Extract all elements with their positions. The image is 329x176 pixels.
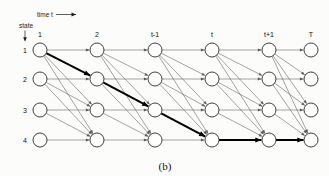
transition-edge [159, 56, 208, 134]
state-node [205, 103, 219, 117]
row-label-2: 2 [23, 76, 27, 83]
transition-edge [217, 55, 264, 104]
transition-edge [160, 55, 207, 104]
transition-edge-arrowhead [86, 49, 90, 52]
state-node [33, 43, 47, 57]
state-node [262, 72, 276, 86]
trellis-figure: time t state 1 2 t-1 t t+1 T 1 2 3 4 [0, 0, 329, 176]
state-node [148, 43, 162, 57]
column-labels: 1 2 t-1 t t+1 T [38, 31, 314, 38]
state-node [33, 103, 47, 117]
transition-edge-arrowhead [86, 139, 90, 142]
transition-edge-arrowhead [201, 78, 205, 81]
highlighted-edge-arrowhead [255, 137, 261, 142]
transition-edge [161, 53, 205, 75]
transition-edge [218, 53, 262, 75]
state-axis-arrow-icon [23, 31, 27, 42]
state-node [90, 103, 104, 117]
transition-edge [272, 56, 308, 133]
axis-annotations: time t state [19, 11, 76, 42]
transition-edge [46, 82, 90, 106]
transition-edge-arrowhead [86, 78, 90, 81]
state-node [304, 133, 318, 147]
state-node [148, 103, 162, 117]
transition-edge [217, 84, 264, 134]
time-axis-arrow-icon [56, 13, 76, 17]
transition-edge [160, 84, 207, 134]
state-node [148, 72, 162, 86]
time-axis-label: time t [37, 11, 53, 18]
column-label-5: t+1 [264, 31, 274, 38]
highlighted-edge-arrowhead [297, 137, 303, 142]
state-node [90, 133, 104, 147]
highlighted-edge [103, 82, 148, 106]
state-node [205, 133, 219, 147]
transition-edge-arrowhead [144, 78, 148, 81]
transition-edge [161, 82, 205, 106]
highlighted-edge [46, 53, 90, 75]
transition-edge-arrowhead [86, 109, 90, 112]
transition-edge-arrowhead [301, 71, 305, 74]
highlighted-path-layer [46, 53, 303, 142]
state-axis-label: state [19, 22, 33, 29]
row-labels: 1 2 3 4 [23, 47, 27, 144]
transition-edge-arrowhead [144, 49, 148, 52]
transition-edge [103, 53, 148, 76]
column-label-1: 1 [38, 31, 42, 38]
column-label-3: t-1 [151, 31, 159, 38]
state-node [262, 133, 276, 147]
transition-edge [216, 56, 265, 134]
state-node [262, 103, 276, 117]
state-node [90, 43, 104, 57]
transition-edge [46, 113, 90, 136]
state-node [148, 133, 162, 147]
transition-edge [275, 83, 305, 105]
transition-edge-arrowhead [144, 109, 148, 112]
transition-edge-arrowhead [301, 132, 305, 135]
state-node [304, 103, 318, 117]
transition-edge-arrowhead [301, 102, 305, 105]
transition-edge-arrowhead [300, 78, 304, 81]
transition-edge-arrowhead [258, 49, 262, 52]
transition-edge-arrowhead [201, 49, 205, 52]
column-label-6: T [309, 31, 314, 38]
state-node [304, 72, 318, 86]
trellis-diagram-canvas: time t state 1 2 t-1 t t+1 T 1 2 3 4 [0, 0, 329, 176]
transition-edge-arrowhead [201, 109, 205, 112]
row-label-4: 4 [23, 137, 27, 144]
state-node [33, 72, 47, 86]
state-node [90, 72, 104, 86]
state-node [205, 72, 219, 86]
row-label-3: 3 [23, 107, 27, 114]
transition-edge-arrowhead [303, 100, 306, 104]
transition-edge [45, 84, 92, 134]
state-node [205, 43, 219, 57]
transition-edge-arrowhead [258, 78, 262, 81]
highlighted-edge [161, 113, 205, 136]
column-label-2: 2 [95, 31, 99, 38]
row-label-1: 1 [23, 47, 27, 54]
transition-edge [44, 56, 93, 134]
state-node [33, 133, 47, 147]
state-node [304, 43, 318, 57]
transition-edge [218, 82, 262, 106]
transition-edge-arrowhead [300, 49, 304, 52]
edge-layer [44, 49, 308, 142]
transition-edge [273, 56, 307, 104]
transition-edge-arrowhead [144, 139, 148, 142]
figure-caption: (b) [159, 160, 172, 173]
transition-edge [102, 84, 150, 134]
transition-edge [103, 113, 148, 136]
transition-edge [218, 113, 262, 136]
state-node [262, 43, 276, 57]
transition-edge-arrowhead [258, 109, 262, 112]
transition-edge [102, 55, 150, 105]
column-label-4: t [211, 31, 213, 38]
transition-edge-arrowhead [201, 139, 205, 142]
transition-edge-arrowhead [300, 109, 304, 112]
transition-edge [45, 55, 92, 104]
